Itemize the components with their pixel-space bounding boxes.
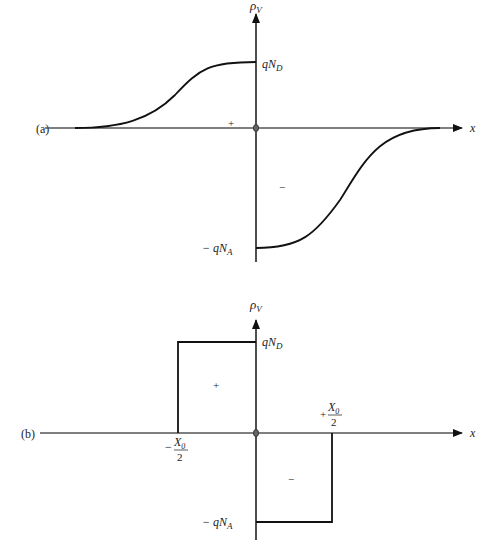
left-edge-label: − X0 2 <box>165 435 188 463</box>
panel-a: (a) x ρV qND − qNA + − <box>36 0 476 262</box>
y-axis-label: ρV <box>249 297 263 314</box>
svg-text:+: + <box>320 408 326 420</box>
svg-text:X0: X0 <box>173 435 185 451</box>
origin-marker <box>254 430 259 437</box>
qnd-label: qND <box>262 57 283 73</box>
right-edge-label: + X0 2 <box>320 400 342 428</box>
panel-a-label: (a) <box>36 122 49 136</box>
qna-label: − qNA <box>202 241 233 257</box>
minus-sign: − <box>279 181 285 193</box>
svg-text:X0: X0 <box>327 400 339 416</box>
plus-sign: + <box>213 379 219 391</box>
panel-b: (b) x ρV qND − qNA + − − X0 2 + X0 <box>21 297 476 540</box>
qnd-label: qND <box>262 335 283 351</box>
plus-sign: + <box>228 117 234 129</box>
svg-text:2: 2 <box>177 451 183 463</box>
origin-marker <box>254 125 259 132</box>
panel-b-label: (b) <box>21 427 35 441</box>
svg-text:−: − <box>165 440 172 454</box>
x-axis-label: x <box>469 426 476 440</box>
y-axis-label: ρV <box>249 0 263 15</box>
x-axis-label: x <box>469 121 476 135</box>
minus-sign: − <box>288 473 294 485</box>
charge-density-figure: (a) x ρV qND − qNA + − (b) x ρV <box>0 0 490 553</box>
qna-label: − qNA <box>202 515 233 531</box>
svg-text:2: 2 <box>331 416 337 428</box>
